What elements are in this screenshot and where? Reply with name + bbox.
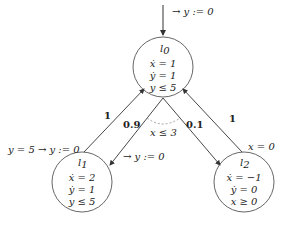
edge-l0-l1-update: → y := 0 bbox=[123, 151, 165, 162]
automaton-diagram: → y := 0 l0 ẋ = 1 ẏ = 1 y ≤ 5 l1 ẋ = 2 ẏ… bbox=[0, 0, 287, 225]
location-l2: l2 ẋ = −1 ẏ = 0 x ≥ 0 bbox=[214, 152, 274, 212]
initial-edge-label: → y := 0 bbox=[172, 6, 214, 17]
edge-l1-l0-guard: y = 5 → y := 0 bbox=[7, 144, 80, 155]
location-l1-invariant: y ≤ 5 bbox=[68, 196, 96, 207]
edge-l2-l0-guard: x = 0 bbox=[248, 141, 275, 152]
edge-l0-l1-probability: 0.9 bbox=[123, 119, 140, 130]
location-l1-flow-y: ẏ = 1 bbox=[68, 184, 96, 195]
location-l0-invariant: y ≤ 5 bbox=[149, 82, 177, 93]
location-l2-flow-x: ẋ = −1 bbox=[226, 172, 261, 183]
location-l1-name: l1 bbox=[78, 157, 88, 170]
location-l2-flow-y: ẏ = 0 bbox=[230, 184, 258, 195]
edge-l0-l2-probability: 0.1 bbox=[186, 119, 203, 130]
location-l0-flow-x: ẋ = 1 bbox=[150, 58, 177, 69]
location-l0-name: l0 bbox=[160, 43, 170, 56]
location-l2-invariant: x ≥ 0 bbox=[231, 196, 258, 207]
edge-l1-l0-probability: 1 bbox=[104, 110, 111, 121]
probabilistic-branch-arc bbox=[147, 118, 180, 124]
location-l2-name: l2 bbox=[240, 157, 250, 170]
location-l0-flow-y: ẏ = 1 bbox=[149, 70, 177, 81]
edge-l2-l0-probability: 1 bbox=[229, 113, 236, 124]
location-l1-flow-x: ẋ = 2 bbox=[69, 172, 96, 183]
location-l1: l1 ẋ = 2 ẏ = 1 y ≤ 5 bbox=[52, 152, 112, 212]
edge-l0-guard: x ≤ 3 bbox=[150, 127, 177, 138]
location-l0: l0 ẋ = 1 ẏ = 1 y ≤ 5 bbox=[133, 37, 193, 97]
